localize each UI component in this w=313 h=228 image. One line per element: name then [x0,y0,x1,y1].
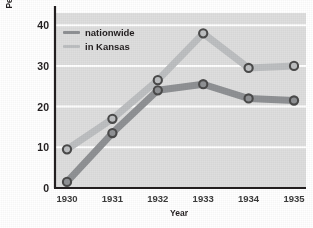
x-axis-title: Year [55,208,303,218]
data-point-marker [63,145,71,153]
legend-item-label: in Kansas [85,41,130,52]
data-point-marker [245,64,253,72]
legend-color-swatch [63,45,80,48]
y-axis-tick-label: 0 [23,183,49,193]
legend-color-swatch [63,31,80,34]
x-axis-tick-label: 1931 [92,193,132,204]
data-point-marker [154,76,162,84]
y-axis-tick-label: 40 [23,20,49,30]
y-axis-title: Percent of Unemployment [2,0,16,32]
x-axis-tick-label: 1935 [274,193,313,204]
y-axis-tick-label: 20 [23,102,49,112]
unemployment-line-chart: Percent of Unemployment Year 010203040 1… [0,0,313,228]
data-point-marker [290,62,298,70]
data-point-marker [63,178,71,186]
data-point-marker [108,115,116,123]
x-axis-tick-label: 1930 [47,193,87,204]
y-axis-tick-label: 30 [23,61,49,71]
x-axis-tick-label: 1933 [183,193,223,204]
data-point-marker [154,86,162,94]
y-axis-tick-label: 10 [23,142,49,152]
data-point-marker [108,129,116,137]
data-point-marker [290,96,298,104]
data-point-marker [199,29,207,37]
x-axis-tick-label: 1934 [229,193,269,204]
legend-item-label: nationwide [85,27,135,38]
data-point-marker [199,80,207,88]
x-axis-tick-label: 1932 [138,193,178,204]
data-point-marker [245,94,253,102]
